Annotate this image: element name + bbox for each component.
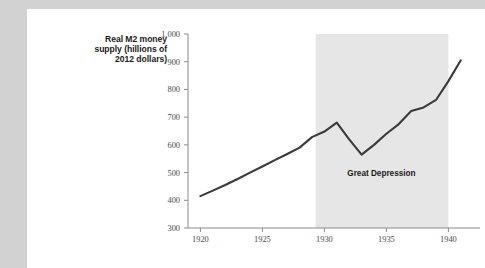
y-tick-label: 800: [167, 85, 180, 94]
x-axis-ticks: 19201925193019351940: [192, 228, 457, 244]
great-depression-annotation-label: Great Depression: [347, 169, 415, 178]
plot-area: 1,000900800700600500400300 1920192519301…: [27, 9, 485, 268]
y-tick-label: 700: [167, 113, 180, 122]
y-tick-label: 400: [167, 196, 180, 205]
y-axis-ticks: 1,000900800700600500400300: [161, 30, 188, 233]
y-tick-label: 600: [167, 141, 180, 150]
x-tick-label: 1925: [254, 235, 271, 244]
y-tick-label: 300: [167, 224, 180, 233]
x-tick-label: 1935: [378, 235, 395, 244]
great-depression-shaded-band: [316, 34, 449, 228]
page-background: Real M2 money supply (hillions of 2012 d…: [0, 0, 485, 268]
chart-figure: Real M2 money supply (hillions of 2012 d…: [27, 9, 485, 268]
figure-paper: Real M2 money supply (hillions of 2012 d…: [27, 9, 485, 268]
x-tick-label: 1930: [316, 235, 333, 244]
x-tick-label: 1920: [192, 235, 209, 244]
y-tick-label: 500: [167, 169, 180, 178]
y-tick-label: 900: [167, 58, 180, 67]
x-tick-label: 1940: [440, 235, 457, 244]
y-tick-label: 1,000: [161, 30, 180, 39]
